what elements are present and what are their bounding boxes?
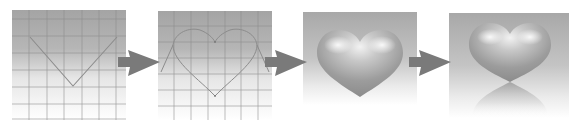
- heart-tip-anchor: [214, 95, 216, 97]
- heart4-highlight-right: [517, 29, 543, 45]
- heart4-highlight-left: [477, 29, 503, 45]
- step-1-panel: [12, 10, 126, 120]
- step-2-background: [158, 11, 272, 120]
- step-4-panel: [449, 13, 569, 118]
- diagram-canvas: [0, 0, 579, 129]
- step-3-panel: [303, 12, 417, 105]
- heart-dip-anchor: [214, 41, 216, 43]
- heart-workflow-diagram: [0, 0, 579, 129]
- heart-highlight-right: [368, 36, 396, 54]
- step-2-panel: [158, 11, 272, 120]
- heart-highlight-left: [324, 36, 352, 54]
